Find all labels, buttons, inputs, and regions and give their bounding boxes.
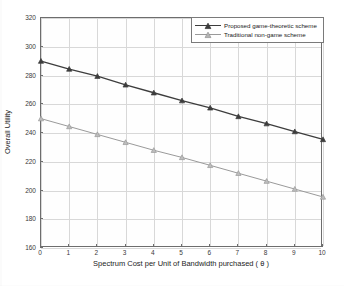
y-tick-label: 200	[25, 186, 36, 193]
y-tick-mark	[40, 132, 43, 133]
y-tick-mark	[40, 218, 43, 219]
y-tick-label: 260	[25, 100, 36, 107]
x-tick-label: 8	[264, 249, 268, 256]
x-tick-label: 9	[292, 249, 296, 256]
x-tick-mark	[96, 244, 97, 247]
x-tick-label: 10	[318, 249, 325, 256]
legend-marker-icon	[195, 30, 221, 39]
x-tick-mark	[153, 244, 154, 247]
x-tick-mark	[237, 244, 238, 247]
y-tick-mark	[40, 103, 43, 104]
x-tick-mark	[266, 244, 267, 247]
legend-item: Traditional non-game scheme	[195, 30, 320, 39]
y-tick-mark	[40, 161, 43, 162]
y-tick-label: 160	[25, 244, 36, 251]
y-tick-mark	[40, 75, 43, 76]
x-tick-label: 0	[38, 249, 42, 256]
x-tick-mark	[125, 244, 126, 247]
x-tick-mark	[294, 244, 295, 247]
legend-marker-icon	[195, 21, 221, 30]
x-tick-label: 7	[236, 249, 240, 256]
data-point-marker	[38, 59, 43, 64]
gridline-vertical	[323, 18, 324, 246]
x-tick-mark	[68, 244, 69, 247]
chart-figure: 012345678910 160180200220240260280300320…	[0, 0, 344, 286]
y-tick-label: 300	[25, 42, 36, 49]
x-tick-label: 5	[179, 249, 183, 256]
legend: Proposed game-theoretic scheme Tradition…	[191, 17, 324, 43]
x-tick-label: 4	[151, 249, 155, 256]
y-tick-mark	[40, 190, 43, 191]
y-tick-label: 240	[25, 129, 36, 136]
y-tick-label: 220	[25, 157, 36, 164]
y-tick-label: 180	[25, 215, 36, 222]
y-axis-label: Overall Utility	[3, 110, 12, 154]
legend-label-traditional: Traditional non-game scheme	[224, 30, 306, 39]
x-tick-label: 1	[66, 249, 70, 256]
y-tick-mark	[40, 46, 43, 47]
x-tick-mark	[181, 244, 182, 247]
x-tick-mark	[322, 244, 323, 247]
data-point-marker	[38, 116, 43, 121]
x-tick-label: 6	[207, 249, 211, 256]
x-tick-mark	[209, 244, 210, 247]
legend-label-proposed: Proposed game-theoretic scheme	[224, 21, 317, 30]
x-tick-label: 3	[123, 249, 127, 256]
x-axis-label: Spectrum Cost per Unit of Bandwidth purc…	[40, 259, 322, 268]
plot-area	[40, 17, 322, 247]
y-tick-mark	[40, 247, 43, 248]
legend-item: Proposed game-theoretic scheme	[195, 21, 320, 30]
series-lines	[41, 18, 323, 248]
y-tick-label: 320	[25, 14, 36, 21]
y-tick-mark	[40, 17, 43, 18]
x-tick-label: 2	[95, 249, 99, 256]
y-tick-label: 280	[25, 71, 36, 78]
